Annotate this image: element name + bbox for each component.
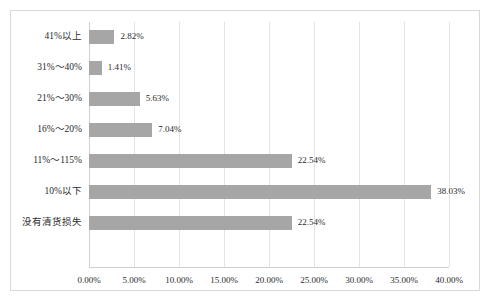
x-tick-label: 35.00% xyxy=(390,273,418,287)
category-label: 11%～115% xyxy=(33,152,82,168)
x-tick-label: 0.00% xyxy=(77,273,100,287)
category-label: 10%以下 xyxy=(45,183,82,199)
plot-area: 41%以上2.82%31%～40%1.41%21%～30%5.63%16%～20… xyxy=(89,22,449,267)
chart-frame: 41%以上2.82%31%～40%1.41%21%～30%5.63%16%～20… xyxy=(10,10,480,291)
bar[interactable] xyxy=(89,61,102,75)
category-label: 41%以上 xyxy=(45,28,82,44)
bar[interactable] xyxy=(89,154,292,168)
bar[interactable] xyxy=(89,185,431,199)
category-label: 31%～40% xyxy=(37,59,82,75)
bar[interactable] xyxy=(89,30,114,44)
x-tick-label: 40.00% xyxy=(435,273,463,287)
bar-row: 31%～40%1.41% xyxy=(89,53,449,84)
x-axis-line xyxy=(89,267,449,268)
bar-value-label: 38.03% xyxy=(437,184,465,198)
x-tick-label: 15.00% xyxy=(210,273,238,287)
bar[interactable] xyxy=(89,123,152,137)
bar[interactable] xyxy=(89,92,140,106)
bar-value-label: 7.04% xyxy=(158,122,181,136)
bar-row: 16%～20%7.04% xyxy=(89,115,449,146)
bar-row: 10%以下38.03% xyxy=(89,177,449,208)
x-tick-label: 25.00% xyxy=(300,273,328,287)
x-axis-tick-labels: 0.00%5.00%10.00%15.00%20.00%25.00%30.00%… xyxy=(89,273,449,289)
gridline-40.00 xyxy=(449,22,450,267)
bar-row: 11%～115%22.54% xyxy=(89,146,449,177)
bar-value-label: 22.54% xyxy=(298,215,326,229)
x-tick-label: 30.00% xyxy=(345,273,373,287)
bar[interactable] xyxy=(89,216,292,230)
category-label: 16%～20% xyxy=(37,121,82,137)
x-tick-label: 10.00% xyxy=(165,273,193,287)
x-tick-label: 20.00% xyxy=(255,273,283,287)
category-label: 21%～30% xyxy=(37,90,82,106)
bar-row: 没有清货损失22.54% xyxy=(89,208,449,239)
bar-row: 41%以上2.82% xyxy=(89,22,449,53)
bar-value-label: 22.54% xyxy=(298,153,326,167)
category-label: 没有清货损失 xyxy=(22,214,82,230)
bar-row: 21%～30%5.63% xyxy=(89,84,449,115)
bar-value-label: 1.41% xyxy=(108,60,131,74)
bar-value-label: 5.63% xyxy=(146,91,169,105)
bar-value-label: 2.82% xyxy=(120,29,143,43)
x-tick-label: 5.00% xyxy=(122,273,145,287)
